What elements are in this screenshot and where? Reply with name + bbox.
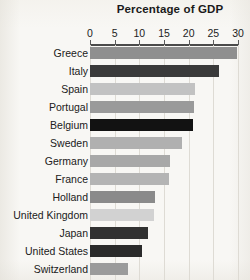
category-label: United Kingdom xyxy=(0,209,88,221)
bar-row: Sweden xyxy=(0,136,250,154)
bar-row: Holland xyxy=(0,190,250,208)
x-tick-label: 10 xyxy=(133,27,145,39)
category-label: Holland xyxy=(0,191,88,203)
chart-container: Percentage of GDP 051015202530 GreeceIta… xyxy=(0,0,250,280)
bar-row: Switzerland xyxy=(0,262,250,280)
x-tick-mark xyxy=(238,40,239,45)
bar xyxy=(90,209,154,221)
category-label: Switzerland xyxy=(0,263,88,275)
x-tick-mark xyxy=(139,40,140,45)
category-label: Portugal xyxy=(0,101,88,113)
bar-row: Belgium xyxy=(0,118,250,136)
bar-row: Greece xyxy=(0,46,250,64)
x-tick-label: 25 xyxy=(207,27,219,39)
category-label: Italy xyxy=(0,65,88,77)
bar xyxy=(90,137,182,149)
x-tick-mark xyxy=(90,40,91,45)
chart-title: Percentage of GDP xyxy=(95,3,245,15)
plot-area: GreeceItalySpainPortugalBelgiumSwedenGer… xyxy=(0,45,250,280)
bar xyxy=(90,119,193,131)
bar xyxy=(90,65,219,77)
x-tick-label: 0 xyxy=(87,27,93,39)
bar-row: Germany xyxy=(0,154,250,172)
bar-row: United States xyxy=(0,244,250,262)
x-tick-mark xyxy=(213,40,214,45)
bar xyxy=(90,263,128,275)
bar-row: Spain xyxy=(0,82,250,100)
bar xyxy=(90,173,169,185)
category-label: Spain xyxy=(0,83,88,95)
bar xyxy=(90,245,142,257)
x-tick-label: 20 xyxy=(183,27,195,39)
x-axis-tick-labels: 051015202530 xyxy=(0,27,250,41)
category-label: France xyxy=(0,173,88,185)
bar xyxy=(90,191,155,203)
bar xyxy=(90,227,148,239)
x-tick-label: 30 xyxy=(232,27,244,39)
bar xyxy=(90,101,194,113)
category-label: Greece xyxy=(0,47,88,59)
category-label: Belgium xyxy=(0,119,88,131)
x-tick-mark xyxy=(115,40,116,45)
bar-row: Italy xyxy=(0,64,250,82)
bar-row: United Kingdom xyxy=(0,208,250,226)
category-label: Germany xyxy=(0,155,88,167)
bar-row: Portugal xyxy=(0,100,250,118)
bar xyxy=(90,47,237,59)
x-tick-label: 15 xyxy=(158,27,170,39)
x-tick-label: 5 xyxy=(112,27,118,39)
bar xyxy=(90,155,170,167)
bar-row: France xyxy=(0,172,250,190)
bar xyxy=(90,83,195,95)
category-label: United States xyxy=(0,245,88,257)
x-tick-mark xyxy=(164,40,165,45)
x-tick-mark xyxy=(189,40,190,45)
category-label: Japan xyxy=(0,227,88,239)
category-label: Sweden xyxy=(0,137,88,149)
bar-row: Japan xyxy=(0,226,250,244)
